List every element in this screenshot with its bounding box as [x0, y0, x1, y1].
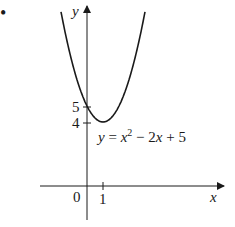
- equation-label: y = x2 − 2x + 5: [96, 127, 186, 145]
- y-tick-label-4: 4: [72, 115, 80, 131]
- bullet-marker: •: [0, 3, 6, 23]
- y-tick-label-5: 5: [72, 99, 80, 115]
- y-axis-label: y: [70, 3, 79, 19]
- origin-label: 0: [73, 189, 81, 205]
- x-axis-label: x: [209, 189, 217, 205]
- x-tick-label-1: 1: [99, 191, 107, 207]
- parabola-diagram: • y x 0 1 5 4 y = x2 − 2x + 5: [0, 0, 235, 227]
